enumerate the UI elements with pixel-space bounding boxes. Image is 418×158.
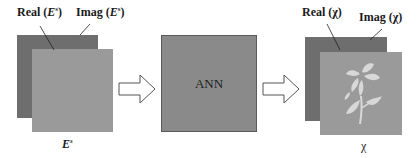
output-caption: χ [361,139,366,154]
output-leader-lines [0,0,418,158]
